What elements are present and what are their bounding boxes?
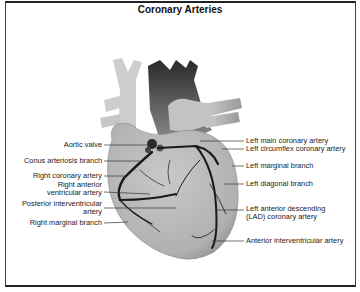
label-left-circumflex-coronary-artery: Left circumflex coronary artery — [246, 145, 345, 153]
label-left-marginal-branch: Left marginal branch — [246, 162, 313, 170]
label-posterior-interventricular-artery: Posterior interventricular artery — [22, 200, 102, 217]
heart-body-icon — [108, 123, 239, 259]
label-lad-coronary-artery: Left anterior descending (LAD) coronary … — [246, 205, 325, 222]
label-aortic-valve: Aortic valve — [64, 141, 102, 149]
label-left-diagonal-branch: Left diagonal branch — [246, 180, 313, 188]
label-right-marginal-branch: Right marginal branch — [30, 219, 102, 227]
label-conus-arteriosis-branch: Conus arteriosis branch — [24, 157, 102, 165]
label-anterior-interventricular-artery: Anterior interventricular artery — [246, 237, 343, 245]
label-right-anterior-ventricular-artery: Right anterior ventricular artery — [47, 181, 102, 198]
